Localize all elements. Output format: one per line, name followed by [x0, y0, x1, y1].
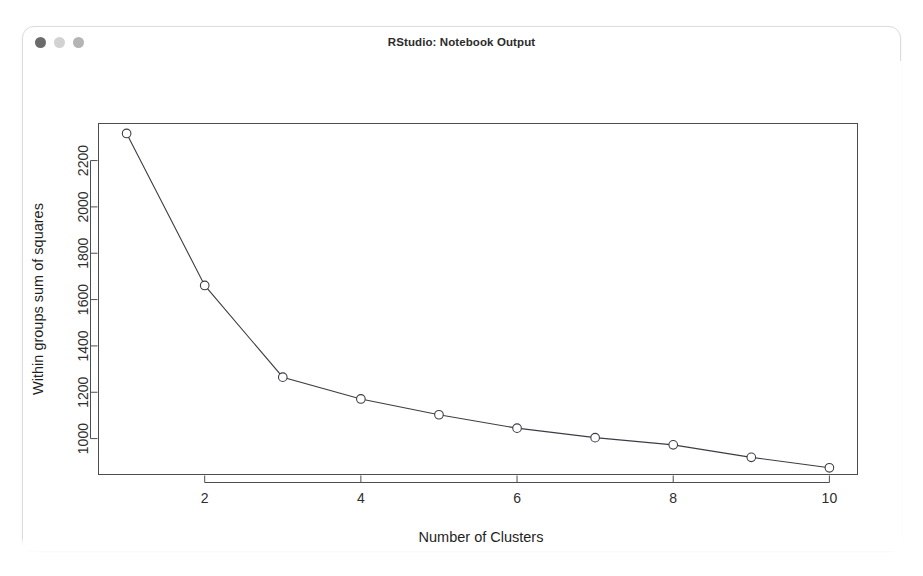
y-tick-label: 1600 — [75, 284, 91, 315]
y-tick-label: 1800 — [75, 237, 91, 268]
y-axis-title: Within groups sum of squares — [30, 203, 46, 395]
x-tick-label: 2 — [201, 490, 209, 506]
x-axis-title: Number of Clusters — [419, 529, 544, 545]
data-point-marker — [591, 433, 600, 442]
y-tick-label: 1400 — [75, 330, 91, 361]
y-tick-label: 2200 — [75, 145, 91, 176]
elbow-plot: 1000120014001600180020002200 246810 Numb… — [23, 61, 902, 551]
data-point-marker — [747, 453, 756, 462]
data-point-marker — [825, 463, 834, 472]
x-tick-label: 10 — [822, 490, 838, 506]
window-titlebar[interactable]: RStudio: Notebook Output — [23, 27, 900, 61]
x-axis: 246810 — [201, 476, 838, 506]
x-tick-label: 8 — [669, 490, 677, 506]
y-tick-label: 1200 — [75, 376, 91, 407]
plot-surface: 1000120014001600180020002200 246810 Numb… — [23, 61, 902, 551]
data-point-marker — [200, 281, 209, 290]
notebook-output-window: RStudio: Notebook Output 100012001400160… — [22, 26, 901, 550]
y-tick-label: 2000 — [75, 191, 91, 222]
series-line-wss — [127, 133, 830, 467]
data-point-marker — [278, 373, 287, 382]
data-point-marker — [122, 129, 131, 138]
data-point-marker — [513, 424, 522, 433]
x-tick-label: 4 — [357, 490, 365, 506]
data-point-marker — [435, 410, 444, 419]
y-tick-label: 1000 — [75, 423, 91, 454]
y-axis: 1000120014001600180020002200 — [75, 145, 97, 454]
data-point-marker — [669, 441, 678, 450]
series-markers — [122, 129, 833, 472]
x-tick-label: 6 — [513, 490, 521, 506]
data-point-marker — [357, 395, 366, 404]
window-title: RStudio: Notebook Output — [23, 36, 900, 48]
